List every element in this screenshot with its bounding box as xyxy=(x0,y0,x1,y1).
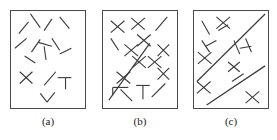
line-segment xyxy=(47,92,55,102)
line-segment xyxy=(19,22,29,34)
panel-a-drawing xyxy=(11,11,85,108)
line-segment xyxy=(38,42,52,46)
line-segment xyxy=(44,19,52,31)
caption-a: (a) xyxy=(10,115,86,127)
line-segment xyxy=(60,48,72,54)
line-segment xyxy=(40,93,47,102)
line-segment xyxy=(156,17,168,31)
line-segment xyxy=(31,39,40,52)
line-segment xyxy=(152,84,166,98)
panel-c-drawing xyxy=(194,11,268,108)
line-segment xyxy=(121,89,133,101)
panel-c xyxy=(193,10,269,109)
figure-container: (a) (b) (c) xyxy=(0,0,277,140)
line-segment xyxy=(52,38,60,50)
line-segment xyxy=(202,21,210,35)
line-segment xyxy=(44,46,46,60)
line-segment xyxy=(206,40,217,46)
panel-a xyxy=(10,10,86,109)
line-segment xyxy=(15,38,27,48)
line-segment xyxy=(232,74,244,82)
caption-c: (c) xyxy=(193,115,269,127)
line-segment xyxy=(202,40,210,52)
panel-b-drawing xyxy=(103,11,177,108)
line-segment xyxy=(44,72,56,86)
long-line xyxy=(207,66,265,105)
caption-b: (b) xyxy=(102,115,178,127)
line-segment xyxy=(246,38,252,52)
line-segment xyxy=(25,56,36,63)
line-segment xyxy=(30,14,40,28)
panel-b xyxy=(102,10,178,109)
line-segment xyxy=(111,38,119,50)
line-segment xyxy=(60,17,70,29)
